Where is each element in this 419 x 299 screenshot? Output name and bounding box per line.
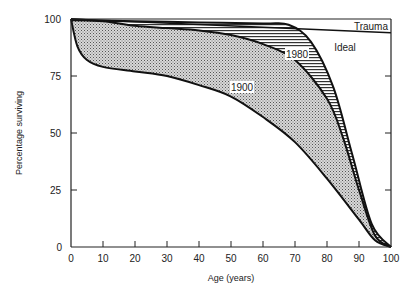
x-tick-label: 80 — [321, 253, 333, 264]
x-tick-label: 100 — [383, 253, 400, 264]
ideal-label: Ideal — [334, 42, 356, 53]
x-tick-label: 20 — [129, 253, 141, 264]
y-axis-title: Percentage surviving — [14, 91, 24, 175]
y-tick-label: 100 — [44, 14, 61, 25]
series-1900-label: 1900 — [231, 82, 254, 93]
y-tick-labels: 0255075100 — [44, 14, 62, 253]
x-tick-labels: 0102030405060708090100 — [68, 253, 400, 264]
y-tick-label: 50 — [50, 128, 62, 139]
survival-chart: 0102030405060708090100 0255075100 Age (y… — [0, 0, 419, 299]
x-tick-label: 30 — [161, 253, 173, 264]
x-tick-label: 90 — [353, 253, 365, 264]
x-tick-label: 10 — [97, 253, 109, 264]
x-tick-label: 50 — [225, 253, 237, 264]
series-1980-label: 1980 — [286, 49, 309, 60]
x-tick-label: 40 — [193, 253, 205, 264]
x-axis-title: Age (years) — [208, 273, 255, 283]
x-tick-label: 60 — [257, 253, 269, 264]
trauma-label: Trauma — [354, 21, 389, 32]
plot-areas — [71, 19, 391, 247]
x-tick-label: 0 — [68, 253, 74, 264]
y-tick-label: 25 — [50, 185, 62, 196]
y-tick-label: 75 — [50, 71, 62, 82]
x-tick-label: 70 — [289, 253, 301, 264]
y-tick-label: 0 — [56, 242, 62, 253]
